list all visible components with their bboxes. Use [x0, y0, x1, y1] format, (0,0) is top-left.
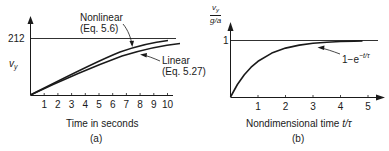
panel-b-y-axis-denominator: g/a — [210, 16, 221, 25]
panel-b-reference-label: 1 — [223, 35, 229, 46]
panel-a-linear-label: Linear — [162, 55, 206, 66]
panel-b-x-tick-label: 2 — [283, 102, 289, 112]
panel-a-x-tick-label: 9 — [151, 100, 157, 110]
panel-a-nonlinear-label: Nonlinear — [80, 12, 123, 23]
panel-b-x-tick-label: 5 — [365, 102, 371, 112]
panel-a-x-tick-label: 3 — [69, 100, 75, 110]
panel-b-x-axis-title-text: Nondimensional time — [246, 118, 342, 129]
panel-b-y-axis-numerator: vy — [210, 3, 221, 16]
panel-b-y-axis-num-subscript: y — [216, 7, 219, 13]
panel-a-x-tick-label: 8 — [137, 100, 143, 110]
panel-a-nonlinear-equation: (Eq. 5.6) — [80, 23, 123, 34]
panel-a-linear-leader-arrow-icon — [140, 53, 147, 58]
panel-a-x-tick-label: 1 — [41, 100, 47, 110]
panel-b-x-axis-title-var: t/τ — [342, 118, 351, 129]
panel-b-caption: (b) — [292, 133, 304, 144]
panel-a-x-axis-title: Time in seconds — [66, 118, 138, 129]
panel-a-y-axis-subscript: y — [14, 63, 18, 70]
panel-a-caption: (a) — [90, 133, 102, 144]
panel-a-linear-equation: (Eq. 5.27) — [162, 66, 206, 77]
panel-b-x-tick-label: 3 — [310, 102, 316, 112]
panel-a-linear-curve — [31, 44, 181, 96]
panel-b-x-axis-title: Nondimensional time t/τ — [246, 118, 351, 129]
panel-b-y-axis-arrow-icon — [228, 22, 234, 31]
panel-b-curve-leader-arrow-icon — [318, 46, 325, 51]
panel-a-x-tick-label: 6 — [110, 100, 116, 110]
panel-a-nonlinear-leader-arrow-icon — [130, 41, 135, 47]
panel-a-linear-annotation: Linear (Eq. 5.27) — [162, 55, 206, 77]
panel-b-curve-label-base: 1−e — [342, 54, 359, 65]
panel-a-x-tick-label: 5 — [96, 100, 102, 110]
panel-b-x-tick-label: 4 — [338, 102, 344, 112]
panel-a-y-axis-arrow-icon — [28, 16, 34, 24]
panel-a-x-tick-label: 7 — [124, 100, 130, 110]
panel-b-x-axis-arrow-icon — [376, 95, 385, 101]
panel-a-x-tick-label: 2 — [55, 100, 61, 110]
panel-a-y-axis-label: vy — [9, 58, 18, 72]
panel-a-x-tick-label: 10 — [162, 100, 173, 110]
panel-a-nonlinear-annotation: Nonlinear (Eq. 5.6) — [80, 12, 123, 34]
panel-b-curve-annotation: 1−e−t/τ — [342, 50, 370, 65]
panel-a-x-tick-label: 4 — [83, 100, 89, 110]
panel-b-x-tick-label: 1 — [255, 102, 261, 112]
panel-a-reference-label: 212 — [8, 33, 25, 44]
panel-b-curve-label-exponent: −t/τ — [359, 52, 370, 59]
panel-b-y-axis-label: vy g/a — [210, 3, 221, 25]
